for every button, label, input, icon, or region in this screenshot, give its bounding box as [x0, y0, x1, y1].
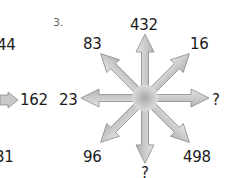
label-left: 23 [59, 93, 78, 108]
label-bottom: ? [141, 166, 149, 178]
label-right: ? [212, 93, 220, 108]
label-top-right: 16 [190, 37, 209, 52]
label-bottom-left: 96 [83, 150, 102, 165]
label-top-left: 83 [83, 37, 102, 52]
label-top: 432 [130, 18, 158, 33]
label-bottom-right: 498 [183, 150, 211, 165]
